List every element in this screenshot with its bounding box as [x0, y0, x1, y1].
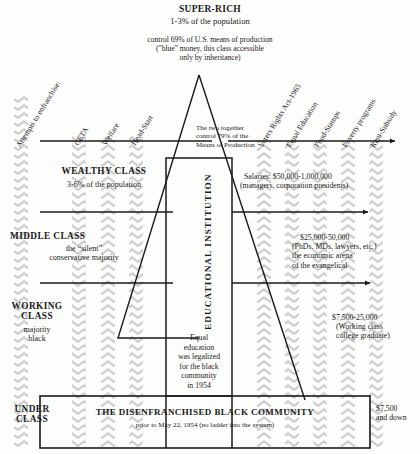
income-note-middle-line1: $25,000-50,000: [300, 233, 420, 242]
educational-institution-body: Equal education was legalized for the bl…: [167, 333, 231, 390]
income-note-under-line1: $7,500: [376, 404, 420, 413]
page-subtitle: 1-3% of the population: [0, 16, 420, 26]
page-title: SUPER-RICH: [0, 4, 420, 14]
income-note-middle-line2: (PhDs, MDs, lawyers, etc.) the economic …: [292, 242, 420, 270]
income-note-under-line2: and down: [376, 413, 420, 422]
class-sub-middle: the “silent” conservative majority: [14, 244, 154, 263]
class-pyramid-diagram: SUPER-RICH 1-3% of the population contro…: [0, 0, 420, 454]
educational-institution-label: EDUCATIONAL INSTITUTION: [203, 173, 213, 330]
disenfranchised-title: THE DISENFRANCHISED BLACK COMMUNITY: [40, 408, 370, 418]
class-sub-working: majority black: [6, 325, 68, 344]
income-note-working-line2: (Working class college graduate): [336, 322, 420, 341]
class-sub-wealthy: 3-6% of the population: [36, 180, 172, 189]
class-label-middle: MIDDLE CLASS: [10, 231, 150, 241]
super-rich-note: control 69% of U.S. means of production …: [0, 36, 420, 62]
class-label-wealthy: WEALTHY CLASS: [40, 166, 168, 176]
income-note-salaries-line1: Salaries: $50,000-1,000,000: [244, 172, 420, 181]
income-note-working-line1: $7,500-25,000: [332, 313, 420, 322]
disenfranchised-sub: prior to May 22, 1954 (no ladder into th…: [40, 421, 370, 429]
class-label-working: WORKING CLASS: [6, 301, 68, 321]
income-note-salaries-line2: (managers, corporation presidents): [240, 181, 420, 190]
